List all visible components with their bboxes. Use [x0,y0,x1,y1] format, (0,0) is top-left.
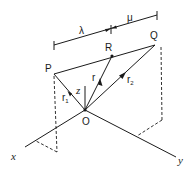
point-o-dot [83,108,86,111]
vector-r1 [54,74,85,110]
label-r: r [92,72,96,83]
label-q: Q [150,30,158,41]
label-r2: r2 [127,74,134,86]
dimension-arrow-lambda-icon [105,29,111,33]
q-floor-projection [137,120,162,136]
label-o: O [82,116,90,127]
position-vectors [54,45,155,110]
projection-lines [36,47,162,152]
vector-division-diagram: λ μ P Q R O r1 r r2 z x y [0,0,194,172]
x-axis [25,110,85,147]
p-vertical-projection [54,76,57,152]
label-r1: r1 [62,92,69,104]
p-floor-projection [36,141,57,152]
label-mu: μ [127,12,133,23]
point-r-dot [110,54,113,57]
label-p: P [45,63,52,74]
dimension-arrow-mu-icon [111,26,117,29]
label-y-axis: y [177,154,183,166]
label-lambda: λ [79,25,84,36]
q-vertical-projection [161,47,162,120]
label-z-axis: z [75,84,81,96]
axes [25,86,176,157]
label-r: R [105,42,112,53]
label-x-axis: x [10,150,16,162]
